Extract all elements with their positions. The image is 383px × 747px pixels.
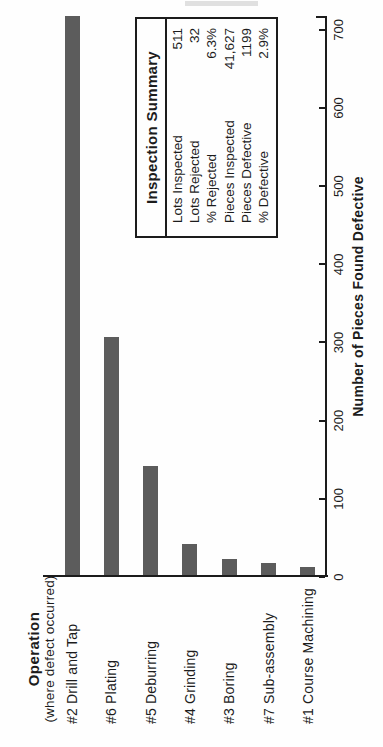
category-axis-line bbox=[43, 575, 328, 577]
summary-row-label: Pieces Defective bbox=[238, 122, 255, 223]
summary-row-value: 1199 bbox=[238, 28, 255, 57]
axis-tick-0 bbox=[319, 576, 325, 578]
axis-tick-500 bbox=[319, 185, 325, 187]
summary-row-lots-inspected: Lots Inspected511 bbox=[169, 19, 186, 236]
scan-artifact bbox=[185, 1, 258, 6]
category-label-4-grinding: #4 Grinding bbox=[182, 649, 198, 724]
category-label-5-deburring: #5 Deburring bbox=[143, 641, 159, 724]
axis-tick-label-700: 700 bbox=[331, 8, 346, 52]
summary-row-value: 2.9% bbox=[255, 28, 272, 59]
category-label-3-boring: #3 Boring bbox=[221, 662, 237, 724]
summary-row-pieces-inspected: Pieces Inspected41,627 bbox=[221, 19, 238, 236]
axis-tick-label-400: 400 bbox=[331, 242, 346, 286]
axis-tick-100 bbox=[319, 498, 325, 500]
axis-tick-300 bbox=[319, 342, 325, 344]
axis-tick-600 bbox=[319, 107, 325, 109]
axis-tick-700 bbox=[319, 29, 325, 31]
category-axis-subtitle: (where defect occurred) bbox=[42, 551, 58, 747]
pareto-chart-figure: Operation (where defect occurred) #2 Dri… bbox=[0, 0, 383, 747]
summary-row-lots-rejected: Lots Rejected32 bbox=[186, 19, 203, 236]
inspection-summary-box: Inspection Summary Lots Inspected511Lots… bbox=[135, 17, 278, 238]
bar-7-sub-assembly bbox=[261, 563, 276, 575]
axis-tick-label-300: 300 bbox=[331, 321, 346, 365]
category-axis-title-block: Operation (where defect occurred) bbox=[25, 551, 58, 747]
bar-5-deburring bbox=[143, 466, 158, 575]
axis-tick-label-500: 500 bbox=[331, 164, 346, 208]
summary-row-rejected: % Rejected6.3% bbox=[203, 19, 220, 236]
category-label-1-course-machining: #1 Course Machining bbox=[300, 588, 316, 724]
bar-1-course-machining bbox=[300, 567, 315, 575]
axis-tick-label-200: 200 bbox=[331, 399, 346, 443]
axis-tick-label-0: 0 bbox=[331, 555, 346, 599]
summary-row-pieces-defective: Pieces Defective1199 bbox=[238, 19, 255, 236]
value-axis-end-cap bbox=[316, 16, 325, 18]
bar-2-drill-and-tap bbox=[65, 16, 80, 575]
value-axis-line bbox=[325, 16, 327, 577]
axis-tick-label-600: 600 bbox=[331, 86, 346, 130]
summary-row-value: 6.3% bbox=[203, 28, 220, 59]
summary-row-value: 32 bbox=[186, 28, 203, 43]
summary-row-label: Lots Rejected bbox=[186, 140, 203, 223]
summary-row-value: 511 bbox=[169, 28, 186, 50]
summary-row-defective: % Defective2.9% bbox=[255, 19, 272, 236]
category-label-6-plating: #6 Plating bbox=[103, 660, 119, 724]
summary-row-value: 41,627 bbox=[221, 28, 238, 69]
bar-4-grinding bbox=[182, 544, 197, 575]
value-axis-title: Number of Pieces Found Defective bbox=[350, 16, 366, 577]
axis-tick-200 bbox=[319, 420, 325, 422]
summary-row-label: % Defective bbox=[255, 151, 272, 223]
summary-row-label: Lots Inspected bbox=[169, 135, 186, 223]
axis-tick-400 bbox=[319, 263, 325, 265]
summary-row-label: % Rejected bbox=[203, 154, 220, 223]
summary-row-label: Pieces Inspected bbox=[221, 120, 238, 223]
category-axis-title: Operation bbox=[25, 551, 42, 747]
inspection-summary-rows: Lots Inspected511Lots Rejected32% Reject… bbox=[167, 19, 272, 236]
bar-6-plating bbox=[104, 337, 119, 575]
category-label-2-drill-and-tap: #2 Drill and Tap bbox=[64, 624, 80, 724]
inspection-summary-title: Inspection Summary bbox=[137, 19, 160, 236]
bar-3-boring bbox=[222, 559, 237, 575]
category-label-7-sub-assembly: #7 Sub-assembly bbox=[261, 613, 277, 724]
axis-tick-label-100: 100 bbox=[331, 477, 346, 521]
